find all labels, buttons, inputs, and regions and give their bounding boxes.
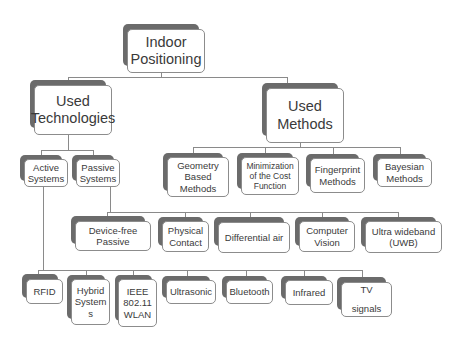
node-label: TV signals (341, 282, 392, 317)
node-label: Device-free Passive (75, 221, 151, 251)
connector-tech-down (68, 134, 69, 150)
node-label: Active Systems (24, 159, 68, 187)
node-label: Differential air (218, 222, 290, 253)
node-label: Ultrasonic (166, 280, 216, 304)
node-label: Indoor Positioning (127, 29, 205, 73)
connector-root-h (68, 77, 288, 78)
connector-root-v (161, 73, 162, 77)
connector-bayesian-top (400, 147, 401, 154)
node-label: Fingerprint Methods (310, 158, 365, 193)
connector-tv-top (362, 270, 363, 277)
node-label: Geometry Based Methods (167, 157, 229, 197)
node-label: RFID (26, 279, 63, 304)
connector-passive-h (107, 212, 399, 213)
node-label: Physical Contact (162, 221, 209, 252)
node-label: Used Technologies (34, 85, 112, 135)
node-label: Computer Vision (299, 221, 355, 252)
connector-methods-h (193, 147, 401, 148)
node-label: IEEE 802.11 WLAN (118, 279, 157, 327)
node-label: Infrared (285, 280, 333, 305)
connector-passive-down (110, 186, 111, 212)
node-label: Bluetooth (226, 280, 273, 304)
node-label: Bayesian Methods (377, 158, 432, 187)
connector-active-down (43, 186, 44, 270)
node-label: Minimization of the Cost Function (241, 157, 299, 195)
node-label: Passive Systems (76, 159, 120, 187)
connector-tech-h (41, 150, 94, 151)
connector-fingerprint-top (333, 147, 334, 154)
node-label: Ultra wideband (UWB) (365, 221, 442, 253)
node-label: Hybrid System s (71, 279, 110, 325)
node-label: Used Methods (266, 88, 344, 143)
